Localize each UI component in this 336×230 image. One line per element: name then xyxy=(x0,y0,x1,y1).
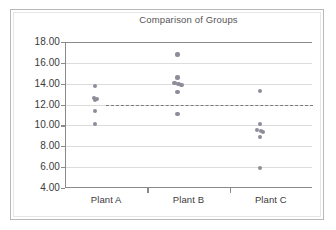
gridline xyxy=(66,84,312,85)
gridline xyxy=(66,125,312,126)
data-point xyxy=(93,84,97,88)
y-axis-tick-label: 12.00 xyxy=(34,99,60,110)
data-point xyxy=(179,83,183,87)
gridline xyxy=(66,63,312,64)
gridline xyxy=(66,167,312,168)
x-axis-tick-mark xyxy=(230,188,231,193)
data-point xyxy=(258,89,262,93)
data-point xyxy=(258,135,262,139)
gridline xyxy=(66,146,312,147)
data-point xyxy=(261,130,265,134)
data-point xyxy=(93,109,97,113)
reference-line xyxy=(106,105,313,106)
data-point xyxy=(93,98,97,102)
data-point xyxy=(175,90,179,94)
chart-title: Comparison of Groups xyxy=(65,14,312,25)
data-point xyxy=(175,52,179,56)
y-axis-tick-label: 6.00 xyxy=(40,161,60,172)
x-axis-tick-label-plant-a: Plant A xyxy=(65,194,147,205)
data-point xyxy=(258,166,262,170)
y-axis-tick-label: 18.00 xyxy=(34,36,60,47)
y-axis-tick-label: 16.00 xyxy=(34,57,60,68)
x-axis-tick-label-plant-b: Plant B xyxy=(147,194,229,205)
x-axis-tick-label-plant-c: Plant C xyxy=(230,194,312,205)
data-point xyxy=(175,75,179,79)
y-axis-tick-label: 14.00 xyxy=(34,78,60,89)
chart-figure: Comparison of Groups 4.006.008.0010.0012… xyxy=(0,0,336,230)
x-axis-tick-mark xyxy=(147,188,148,193)
gridline xyxy=(66,42,312,43)
y-axis-tick-label: 10.00 xyxy=(34,119,60,130)
y-axis-tick-mark xyxy=(61,188,65,189)
plot-area xyxy=(65,42,312,188)
y-axis-tick-label: 8.00 xyxy=(40,140,60,151)
y-axis-tick-label: 4.00 xyxy=(40,182,60,193)
data-point xyxy=(175,112,179,116)
